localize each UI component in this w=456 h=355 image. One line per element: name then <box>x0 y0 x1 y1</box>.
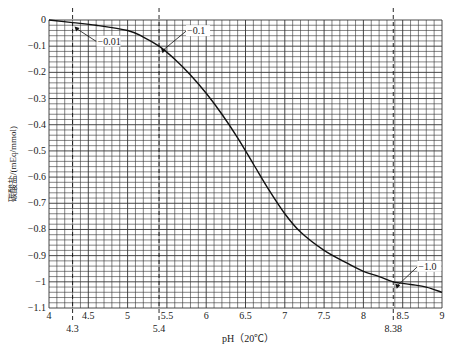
y-tick-label: −1.1 <box>28 302 46 313</box>
y-tick-label: −0.5 <box>28 145 46 156</box>
y-axis-label: 碳酸盐/(mEq/mmol) <box>7 126 18 202</box>
x-tick-label: 4.5 <box>82 310 95 321</box>
y-tick-label: −1 <box>35 276 46 287</box>
y-tick-label: −0.3 <box>28 93 46 104</box>
y-tick-label: −0.7 <box>28 197 46 208</box>
x-tick-label: 5.5 <box>161 310 174 321</box>
y-tick-label: −0.9 <box>28 250 46 261</box>
x-tick-label: 4 <box>47 310 52 321</box>
annotation-label: −0.1 <box>187 25 205 36</box>
titration-chart: 4.35.48.38 −0.01−0.1−1.0 44.555.566.577.… <box>0 0 456 355</box>
x-tick-label: 5 <box>125 310 130 321</box>
annotation-label: −0.01 <box>98 36 121 47</box>
y-tick-label: −0.8 <box>28 223 46 234</box>
y-tick-label: −0.4 <box>28 119 46 130</box>
x-tick-label: 9 <box>440 310 445 321</box>
y-axis-ticks: 0−0.1−0.2−0.3−0.4−0.5−0.6−0.7−0.8−0.9−1−… <box>28 14 46 313</box>
x-axis-ticks: 44.555.566.577.588.59 <box>47 310 445 321</box>
reference-label: 8.38 <box>385 323 403 334</box>
reference-label: 5.4 <box>153 323 166 334</box>
y-tick-label: −0.1 <box>28 40 46 51</box>
x-tick-label: 8.5 <box>396 310 409 321</box>
x-tick-label: 7 <box>282 310 287 321</box>
x-tick-label: 8 <box>361 310 366 321</box>
reference-label: 4.3 <box>66 323 79 334</box>
x-tick-label: 6.5 <box>239 310 252 321</box>
y-tick-label: −0.2 <box>28 66 46 77</box>
annotation-label: −1.0 <box>418 261 436 272</box>
x-tick-label: 7.5 <box>318 310 331 321</box>
x-tick-label: 6 <box>204 310 209 321</box>
x-axis-label: pH（20℃） <box>222 333 274 344</box>
y-tick-label: −0.6 <box>28 171 46 182</box>
grid <box>49 20 442 308</box>
y-tick-label: 0 <box>41 14 46 25</box>
annotations: −0.01−0.1−1.0 <box>75 25 442 289</box>
